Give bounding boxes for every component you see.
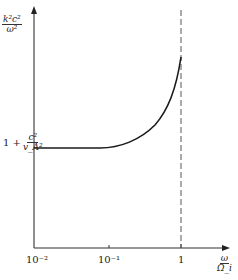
x-tick-label-1: 1 bbox=[178, 254, 184, 265]
y-axis-arrow-icon bbox=[31, 6, 37, 14]
level-denominator: v_A² bbox=[23, 143, 43, 153]
x-tick-label-1e-1: 10⁻¹ bbox=[98, 254, 120, 265]
y-label-denominator: ω² bbox=[6, 25, 17, 35]
y-level-label: 1 + c² v_A² bbox=[3, 133, 43, 153]
dispersion-curve bbox=[34, 57, 181, 148]
x-tick-label-1e-2: 10⁻² bbox=[26, 254, 48, 265]
x-axis-arrow-icon bbox=[222, 245, 230, 251]
x-label-denominator: Ω_i bbox=[217, 264, 232, 274]
y-axis-label: k²c² ω² bbox=[2, 14, 22, 35]
level-prefix: 1 + bbox=[3, 137, 21, 148]
x-axis-label: ω Ω_i bbox=[217, 253, 232, 274]
